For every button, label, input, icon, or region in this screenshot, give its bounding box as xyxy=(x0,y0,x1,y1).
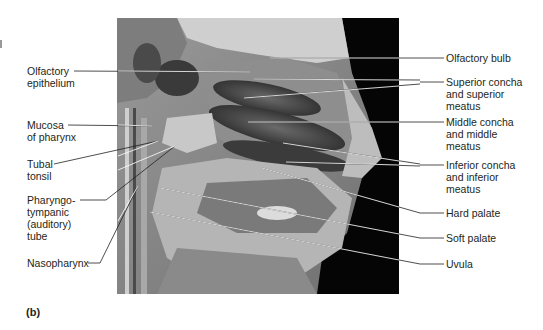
label-pharyngotympanic-tube: Pharyngo- tympanic (auditory) tube xyxy=(27,194,75,242)
label-line: Olfactory xyxy=(27,65,75,77)
label-line: Hard palate xyxy=(446,207,500,219)
label-line: tympanic xyxy=(27,206,75,218)
label-line: (auditory) xyxy=(27,218,75,230)
label-line: meatus xyxy=(446,183,515,195)
label-superior-concha: Superior concha and superior meatus xyxy=(446,76,522,112)
label-mucosa-of-pharynx: Mucosa of pharynx xyxy=(27,119,76,143)
label-tubal-tonsil: Tubal tonsil xyxy=(27,158,53,182)
label-line: meatus xyxy=(446,100,522,112)
label-soft-palate: Soft palate xyxy=(446,232,496,244)
label-line: Olfactory bulb xyxy=(446,52,511,64)
label-line: tube xyxy=(27,230,75,242)
label-line: Nasopharynx xyxy=(27,257,89,269)
label-olfactory-epithelium: Olfactory epithelium xyxy=(27,65,75,89)
label-middle-concha: Middle concha and middle meatus xyxy=(446,116,514,152)
label-line: epithelium xyxy=(27,77,75,89)
label-line: Middle concha xyxy=(446,116,514,128)
label-line: of pharynx xyxy=(27,131,76,143)
label-line: Uvula xyxy=(446,258,473,270)
label-line: Mucosa xyxy=(27,119,76,131)
anatomical-photograph xyxy=(117,18,399,294)
label-nasopharynx: Nasopharynx xyxy=(27,257,89,269)
panel-label: (b) xyxy=(26,306,40,318)
sagittal-section-image xyxy=(117,18,399,294)
label-line: tonsil xyxy=(27,170,53,182)
label-line: Pharyngo- xyxy=(27,194,75,206)
label-line: Tubal xyxy=(27,158,53,170)
label-line: Inferior concha xyxy=(446,159,515,171)
margin-mark xyxy=(0,40,2,48)
label-line: and middle xyxy=(446,128,514,140)
label-uvula: Uvula xyxy=(446,258,473,270)
label-line: meatus xyxy=(446,140,514,152)
label-line: Superior concha xyxy=(446,76,522,88)
label-line: and inferior xyxy=(446,171,515,183)
label-line: and superior xyxy=(446,88,522,100)
label-olfactory-bulb: Olfactory bulb xyxy=(446,52,511,64)
label-inferior-concha: Inferior concha and inferior meatus xyxy=(446,159,515,195)
label-line: Soft palate xyxy=(446,232,496,244)
label-hard-palate: Hard palate xyxy=(446,207,500,219)
